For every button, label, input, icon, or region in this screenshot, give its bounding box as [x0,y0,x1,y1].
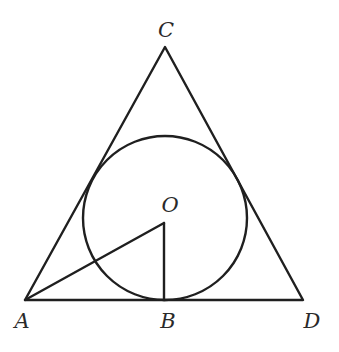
label-a: A [12,309,29,333]
diagram-canvas: C O A B D [0,0,339,352]
label-d: D [303,309,321,333]
geometry-diagram: C O A B D [0,0,339,352]
label-c: C [158,18,174,42]
label-b: B [159,309,175,333]
label-o: O [161,193,178,217]
